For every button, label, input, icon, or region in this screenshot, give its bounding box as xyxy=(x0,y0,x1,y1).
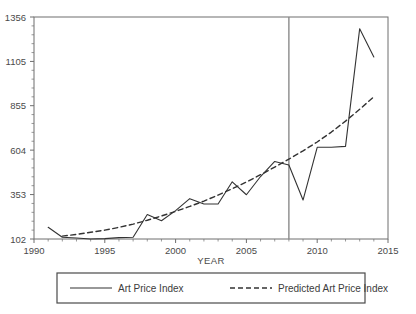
legend-label-predicted-art-price-index: Predicted Art Price Index xyxy=(278,283,388,294)
y-tick-label: 604 xyxy=(10,145,26,156)
chart-legend: Art Price Index Predicted Art Price Inde… xyxy=(57,273,388,303)
x-tick-label: 1990 xyxy=(23,245,44,256)
x-tick-label: 2000 xyxy=(165,245,186,256)
legend-label-art-price-index: Art Price Index xyxy=(118,283,184,294)
y-tick-label: 1105 xyxy=(6,56,26,67)
y-axis-ticks: 10235360485511051356 xyxy=(5,12,34,245)
x-axis-title: YEAR xyxy=(197,255,224,266)
data-series-layer xyxy=(48,29,374,239)
y-tick-label: 855 xyxy=(10,100,26,111)
x-tick-label: 2015 xyxy=(377,245,398,256)
series-predicted-art-price-index xyxy=(62,97,374,236)
chart-svg: 10235360485511051356 1990199520002005201… xyxy=(0,0,416,314)
x-tick-label: 1995 xyxy=(94,245,115,256)
y-tick-label: 102 xyxy=(10,234,26,245)
y-tick-label: 353 xyxy=(10,189,26,200)
x-axis-ticks: 199019952000200520102015 xyxy=(23,239,398,256)
y-tick-label: 1356 xyxy=(5,12,26,23)
x-tick-label: 2005 xyxy=(236,245,257,256)
art-price-index-chart: 10235360485511051356 1990199520002005201… xyxy=(0,0,416,314)
plot-border xyxy=(34,17,388,239)
x-tick-label: 2010 xyxy=(307,245,328,256)
series-art-price-index xyxy=(48,29,374,239)
